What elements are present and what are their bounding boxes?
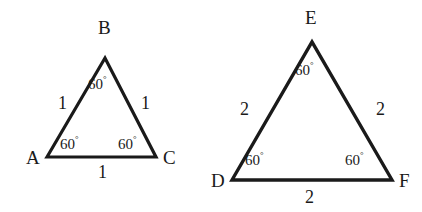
vertex-label-d: D (211, 171, 225, 190)
angle-value-c: 60 (118, 136, 133, 152)
side-label-ac: 1 (98, 163, 107, 181)
degree-symbol-icon: ° (310, 60, 314, 70)
vertex-label-c: C (163, 148, 176, 167)
vertex-label-f: F (399, 171, 410, 190)
angle-value-b: 60 (88, 76, 103, 92)
vertex-label-e: E (305, 8, 317, 27)
degree-symbol-icon: ° (360, 150, 364, 160)
side-label-bc: 1 (141, 94, 150, 112)
side-label-de: 2 (240, 100, 249, 118)
angle-value-e: 60 (295, 62, 310, 78)
angle-value-d: 60 (245, 152, 260, 168)
angle-label-c: 60° (118, 136, 137, 152)
angle-label-a: 60° (60, 136, 79, 152)
side-label-ef: 2 (376, 100, 385, 118)
angle-label-e: 60° (295, 62, 314, 78)
degree-symbol-icon: ° (260, 150, 264, 160)
vertex-label-b: B (98, 18, 111, 37)
angle-value-f: 60 (345, 152, 360, 168)
angle-label-f: 60° (345, 152, 364, 168)
degree-symbol-icon: ° (103, 74, 107, 84)
geometry-figure: A B C 1 1 1 60° 60° 60° D E F 2 2 2 60° … (0, 0, 422, 212)
side-label-df: 2 (305, 188, 314, 206)
degree-symbol-icon: ° (133, 134, 137, 144)
angle-label-b: 60° (88, 76, 107, 92)
side-label-ab: 1 (58, 94, 67, 112)
angle-value-a: 60 (60, 136, 75, 152)
angle-label-d: 60° (245, 152, 264, 168)
degree-symbol-icon: ° (75, 134, 79, 144)
vertex-label-a: A (26, 148, 40, 167)
